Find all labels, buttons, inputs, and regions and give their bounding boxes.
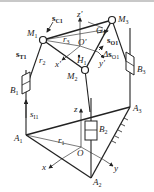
label-b3: B3 [137,64,146,75]
label-s-c1: sC1 [52,13,63,24]
label-s-o1: sO1 [107,35,118,46]
leg-2-link [85,70,90,112]
slider-b2 [85,121,97,140]
mechanism-diagram: M1 M3 M2 A1 A2 A3 O O' G1 H1 B1 B2 B3 x … [0,0,154,192]
label-m2: M2 [66,71,78,82]
label-a3: A3 [132,103,142,114]
label-b2: B2 [99,124,108,135]
label-r1: r1 [58,135,65,146]
ground-hatch [112,118,128,143]
joint-m1 [40,37,47,44]
label-y-prime: y' [98,58,106,68]
slider-b3 [126,52,134,75]
edge-a2-a3 [91,107,130,178]
label-o: O [77,148,84,158]
label-y: y [113,163,118,173]
vector-sC1 [47,22,53,32]
label-x: x [41,162,46,172]
joint-m2 [82,67,89,74]
labels: M1 M3 M2 A1 A2 A3 O O' G1 H1 B1 B2 B3 x … [10,9,146,188]
label-h1: H1 [76,55,87,66]
label-b1: B1 [10,85,19,96]
edge-a1-a3 [26,107,130,135]
slider-b1 [22,72,30,94]
label-m1: M1 [26,28,38,39]
label-r2: r2 [39,55,46,66]
label-o-prime: O' [78,37,87,47]
base-inner [26,109,113,168]
label-x-prime: x' [54,59,62,69]
label-g1: G1 [96,25,106,36]
y-axis-arrow [104,160,113,166]
label-a2: A2 [92,177,102,188]
label-a1: A1 [13,133,23,144]
label-delta-s-o1: ΔsO1 [102,49,119,60]
label-s-t1: sT1 [16,49,27,60]
label-z-prime: z' [76,9,84,19]
label-m3: M3 [117,14,129,25]
joint-m3 [109,17,116,24]
r3-line [43,40,80,46]
label-s-i1: sI1 [30,109,39,120]
x-axis-arrow [49,160,60,168]
label-z: z [73,104,78,114]
